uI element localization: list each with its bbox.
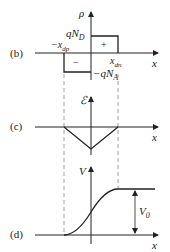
- efield-axis-label: ℰ: [80, 94, 88, 106]
- positive-sign: +: [101, 39, 107, 50]
- x-axis-label: x: [151, 57, 157, 69]
- x-axis-label: x: [151, 239, 157, 251]
- panel-label-b: (b): [10, 47, 23, 60]
- potential-axis-label: V: [79, 165, 87, 177]
- panel-electric-field: (c) ℰ x: [10, 94, 158, 155]
- panel-potential: (d) V x V0: [10, 165, 158, 251]
- neg-xdp-label: −xdp: [51, 39, 70, 53]
- v0-label: V0: [139, 205, 150, 220]
- panel-label-c: (c): [10, 120, 23, 133]
- rho-axis-label: ρ: [78, 7, 84, 19]
- qND-label: qND: [66, 27, 85, 42]
- pn-junction-diagram: (b) ρ x + − qND −xdp xdn −qNA (c) ℰ x (d…: [0, 0, 170, 252]
- x-axis-label: x: [151, 131, 157, 143]
- panel-label-d: (d): [10, 228, 23, 241]
- panel-charge-density: (b) ρ x + − qND −xdp xdn −qNA: [10, 7, 158, 82]
- neg-qNA-label: −qNA: [93, 67, 118, 82]
- negative-sign: −: [73, 57, 79, 68]
